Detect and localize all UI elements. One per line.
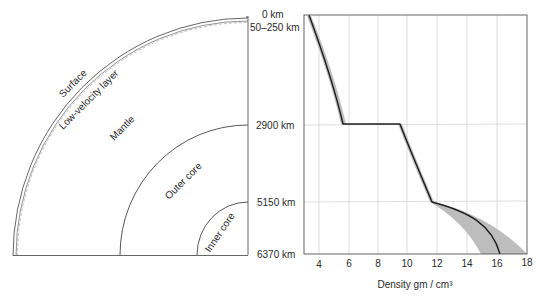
- depth-label-5150: 5150 km: [257, 197, 295, 208]
- x-tick-14: 14: [461, 258, 473, 269]
- label-mantle: Mantle: [108, 113, 137, 142]
- low-velocity-arc: [16, 21, 248, 256]
- x-tick-18: 18: [521, 257, 533, 268]
- depth-label-2900: 2900 km: [256, 120, 294, 131]
- label-inner-core: Inner core: [203, 210, 238, 254]
- label-low-velocity-layer: Low-velocity layer: [57, 67, 121, 131]
- chart-frame: [304, 15, 527, 254]
- earth-cross-section: Surface Low-velocity layer Mantle Outer …: [13, 16, 248, 256]
- earth-density-diagram: Surface Low-velocity layer Mantle Outer …: [0, 0, 546, 298]
- depth-labels: 0 km 50–250 km 2900 km 5150 km 6370 km: [250, 9, 299, 260]
- density-chart: 4 6 8 10 12 14 16 18 Density gm / cm³: [304, 15, 533, 290]
- x-tick-10: 10: [401, 258, 413, 269]
- label-outer-core: Outer core: [163, 160, 204, 201]
- uncertainty-band: [307, 16, 527, 254]
- depth-label-0: 0 km: [262, 9, 284, 20]
- core-mantle-boundary: [120, 125, 248, 255]
- x-tick-4: 4: [316, 259, 322, 270]
- x-tick-8: 8: [375, 258, 381, 269]
- x-tick-labels: 4 6 8 10 12 14 16 18: [316, 257, 533, 270]
- x-tick-12: 12: [431, 258, 443, 269]
- x-axis-title: Density gm / cm³: [377, 279, 453, 290]
- depth-label-6370: 6370 km: [257, 249, 295, 260]
- label-surface: Surface: [57, 67, 89, 99]
- low-velocity-arc-dashed: [18, 23, 249, 257]
- depth-label-50-250: 50–250 km: [250, 22, 299, 33]
- x-tick-16: 16: [491, 258, 503, 269]
- x-tick-6: 6: [346, 258, 352, 269]
